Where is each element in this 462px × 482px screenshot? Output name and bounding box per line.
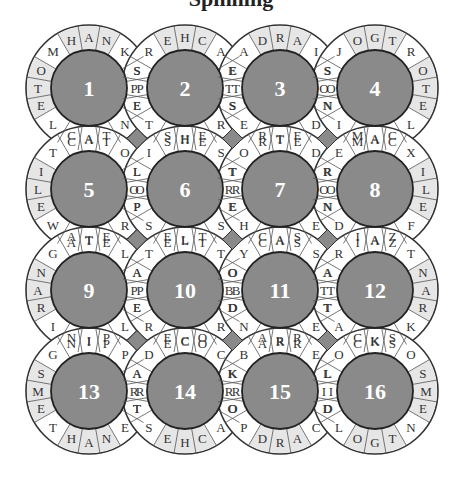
letter-right: T [327,283,335,298]
letter-nw: T [145,246,153,261]
letter-top: H [180,30,189,45]
letter-top: S [389,336,396,351]
letter-left: L [34,182,42,197]
letter-left: S [133,63,140,78]
letter-se: F [407,218,414,233]
letter-sw: L [49,117,57,132]
letter-bottom: A [293,431,303,446]
letter-left: D [322,401,331,416]
letter-nw: G [48,347,57,362]
letter-left: I [39,164,43,179]
letter-left: E [37,401,45,416]
letter-nw: R [145,44,154,59]
letter-left: T [323,300,331,315]
letter-sw: I [51,319,55,334]
letter-nw: M [47,44,59,59]
letter-bottom: N [102,431,112,446]
letter-top: T [388,33,396,48]
letter-left: P [130,283,137,298]
letter-se: R [121,218,130,233]
letter-ne: K [120,44,130,59]
letter-ne: T [217,246,225,261]
letter-se: E [312,218,320,233]
circle-number: 16 [364,379,386,404]
letter-ne: S [217,145,224,160]
letter-top: N [102,33,112,48]
letter-se: K [406,319,416,334]
letter-top: M [352,134,364,149]
circle-number: 3 [275,76,286,101]
letter-sw: W [47,218,60,233]
letter-nw: G [48,246,57,261]
letter-nw: B [240,347,249,362]
letter-left: E [133,300,141,315]
letter-top: D [258,33,267,48]
letter-bottom: T [388,431,396,446]
circle-number: 13 [78,379,100,404]
letter-left: O [36,63,45,78]
letter-top: S [294,235,301,250]
circle-number: 6 [180,177,191,202]
letter-top: Z [388,235,396,250]
letter-left: O [227,401,236,416]
letter-left: P [133,199,140,214]
letter-top: K [370,333,380,348]
letter-top: A [293,33,303,48]
letter-left: O [227,265,236,280]
letter-left: R [130,384,139,399]
circle-number: 10 [174,278,196,303]
letter-top: H [180,131,189,146]
letter-top: C [353,336,362,351]
circle-number: 2 [180,76,191,101]
letter-nw: Y [239,246,249,261]
letter-right: T [422,81,430,96]
letter-left: L [133,164,141,179]
letter-sw: A [334,319,344,334]
letter-top: C [258,235,267,250]
letter-right: M [420,384,432,399]
letter-bottom: A [84,435,94,450]
letter-left: N [322,199,332,214]
letter-top: T [276,131,284,146]
circle-number: 5 [84,177,95,202]
letter-sw: H [239,218,248,233]
letter-bottom: G [370,435,379,450]
letter-top: E [164,235,172,250]
letter-top: O [353,33,362,48]
letter-nw: J [336,44,341,59]
letter-right: R [419,300,428,315]
letter-se: N [120,117,130,132]
letter-sw: L [335,420,343,435]
letter-left: A [33,283,43,298]
letter-top: R [276,30,285,45]
letter-se: C [312,420,321,435]
letter-top: A [258,336,268,351]
letter-top: E [198,134,206,149]
circle-number: 1 [84,76,95,101]
letter-top: R [293,336,302,351]
letter-left: T [228,164,236,179]
letter-nw: R [335,246,344,261]
letter-bottom: H [67,431,76,446]
letter-left: A [322,265,332,280]
letter-left: E [133,98,141,113]
letter-left: T [133,401,141,416]
circle-number: 14 [174,379,196,404]
letter-left: T [34,81,42,96]
letter-left: O [319,182,328,197]
letter-top: A [370,232,380,247]
letter-se: S [217,218,224,233]
letter-left: R [225,182,234,197]
letter-left: E [228,199,236,214]
letter-ne: L [121,246,129,261]
letter-se: N [406,420,416,435]
letter-right: E [419,98,427,113]
letter-ne: I [314,44,318,59]
letter-top: A [370,131,380,146]
circle-number: 8 [370,177,381,202]
letter-top: O [198,336,207,351]
letter-se: E [312,319,320,334]
letter-ne: O [406,347,415,362]
letter-top: I [355,235,359,250]
letter-sw: N [239,319,249,334]
